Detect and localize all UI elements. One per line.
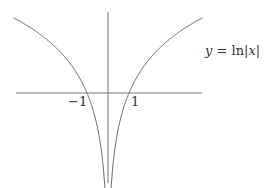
function-label: y = ln|x| [205, 43, 260, 58]
tick-label-neg1: −1 [68, 94, 87, 109]
eq-ln: ln [232, 43, 245, 58]
curve-left-branch [14, 18, 106, 188]
eq-bar-right: | [256, 43, 260, 58]
tick-label-1: 1 [131, 94, 139, 109]
curve-right-branch [111, 18, 203, 188]
eq-equals: = [212, 43, 231, 58]
eq-x: x [248, 43, 255, 58]
